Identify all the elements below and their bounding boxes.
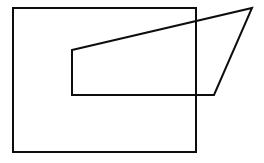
slanted-trapezoid-shape — [72, 8, 252, 95]
large-rectangle-shape — [13, 8, 196, 152]
figure-canvas — [0, 0, 264, 163]
shape-group — [13, 8, 252, 152]
line-drawing-svg — [0, 0, 264, 163]
